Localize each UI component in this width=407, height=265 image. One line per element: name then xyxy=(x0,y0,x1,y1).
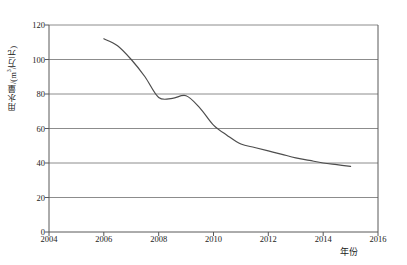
gridlines xyxy=(49,25,378,198)
chart-svg xyxy=(0,0,407,265)
y-axis-tick-marks xyxy=(45,25,49,232)
chart-figure: 用水量/(m3/万元) 120 100 80 60 40 20 0 2004 2… xyxy=(0,0,407,265)
data-series-line xyxy=(104,39,351,167)
x-axis-tick-marks xyxy=(49,232,378,236)
